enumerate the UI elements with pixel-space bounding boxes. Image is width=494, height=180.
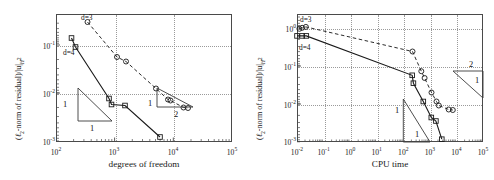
chart-panel-left: d=3 d=4 1 1 1 2 10-1 10-2 10-3 102 103 1… — [0, 0, 247, 180]
slope-label-vertical-1: 1 — [63, 100, 67, 109]
xtick-label: 103 — [418, 146, 442, 157]
chart-panel-right: d=3 d=4 1 1 2 1 100 10-1 10-2 10-3 10-2 … — [247, 0, 494, 180]
slope-triangle-half-left — [157, 88, 193, 107]
ytick-label: 10-1 — [29, 40, 55, 51]
slope-label-horizontal-2r: 2 — [469, 60, 473, 69]
ytick-label: 10-2 — [29, 88, 55, 99]
series-d4-right — [295, 34, 444, 142]
slope-label-horizontal-2: 2 — [174, 110, 178, 119]
series-d3-right — [297, 24, 455, 112]
xtick-label: 102 — [44, 146, 68, 157]
figure-root: d=3 d=4 1 1 1 2 10-1 10-2 10-3 102 103 1… — [0, 0, 494, 180]
slope-label-vertical-1r: 1 — [395, 106, 399, 115]
slope-label-horizontal-1: 1 — [90, 124, 94, 133]
annotation-d4-left: d=4 — [63, 48, 75, 57]
xtick-label: 10-1 — [312, 146, 336, 157]
slope-label-vertical-2r: 1 — [475, 76, 479, 85]
annotation-d4-right: d=4 — [299, 43, 311, 52]
xaxis-label-left: degrees of freedom — [56, 159, 232, 169]
xtick-label: 104 — [161, 146, 185, 157]
ytick-label: 10-3 — [270, 136, 296, 147]
xtick-label: 10-2 — [285, 146, 309, 157]
series-d4-left — [69, 36, 162, 140]
xtick-label: 105 — [220, 146, 244, 157]
xtick-label: 100 — [338, 146, 362, 157]
xtick-label: 103 — [102, 146, 126, 157]
xtick-label: 101 — [365, 146, 389, 157]
ytick-label: 10-1 — [270, 61, 296, 72]
ytick-label: 100 — [270, 23, 296, 34]
slope-triangle-one-left — [78, 88, 112, 121]
xtick-label: 104 — [444, 146, 468, 157]
annotation-d3-right: d=3 — [300, 15, 312, 24]
xtick-label: 105 — [471, 146, 494, 157]
xaxis-label-right: CPU time — [297, 159, 483, 169]
yaxis-label-right: (ℓ2-norm of residual)/|u|H2 — [255, 57, 266, 140]
yaxis-label-left: (ℓ2-norm of residual)/|u|H2 — [14, 57, 25, 140]
annotation-d3-left: d=3 — [81, 13, 93, 22]
ytick-label: 10-3 — [29, 136, 55, 147]
slope-label-vertical-2: 1 — [148, 99, 152, 108]
xtick-label: 102 — [391, 146, 415, 157]
ytick-label: 10-2 — [270, 99, 296, 110]
slope-label-horizontal-1r: 1 — [415, 130, 419, 139]
